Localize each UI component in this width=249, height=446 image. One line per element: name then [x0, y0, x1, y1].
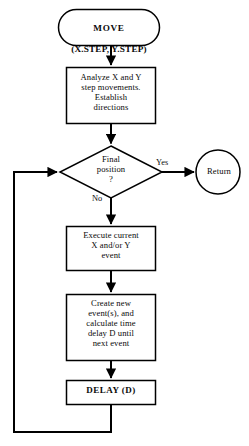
start-line-1: MOVE — [58, 23, 160, 34]
node-label-delay: DELAY (D) — [66, 385, 156, 395]
flowchart-canvas — [0, 0, 249, 446]
start-line-2: (X.STEP, Y.STEP) — [58, 44, 160, 55]
node-label-execute: Execute current X and/or Y event — [66, 231, 156, 261]
node-label-start: MOVE (X.STEP, Y.STEP) — [58, 12, 160, 65]
edge-label-no: No — [92, 194, 102, 203]
flowchart-diagram: MOVE (X.STEP, Y.STEP) Analyze X and Y st… — [0, 0, 249, 446]
node-label-return: Return — [196, 167, 242, 177]
node-label-create: Create new event(s), and calculate time … — [66, 299, 156, 349]
node-label-analyze: Analyze X and Y step movements. Establis… — [66, 73, 156, 113]
edge-label-yes: Yes — [156, 158, 168, 167]
node-label-decision: Final position ? — [76, 155, 146, 185]
